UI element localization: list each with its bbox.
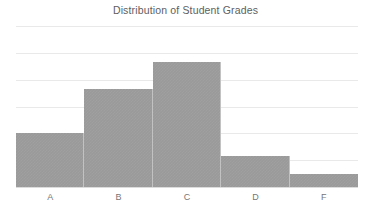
x-tick-label-b: B [84,190,152,204]
axis-baseline [16,187,358,188]
bar-series [16,26,358,187]
bar-c[interactable] [153,62,221,187]
chart-title: Distribution of Student Grades [0,3,371,17]
x-tick-label-d: D [221,190,289,204]
bar-d[interactable] [221,156,289,187]
bar-f[interactable] [290,174,358,187]
x-tick-label-f: F [290,190,358,204]
chart-container: Distribution of Student Grades ABCDF [0,0,371,210]
plot-area [16,26,358,187]
x-tick-label-c: C [153,190,221,204]
bar-a[interactable] [16,133,84,187]
bar-b[interactable] [84,89,152,187]
x-tick-label-a: A [16,190,84,204]
x-axis: ABCDF [16,190,358,208]
